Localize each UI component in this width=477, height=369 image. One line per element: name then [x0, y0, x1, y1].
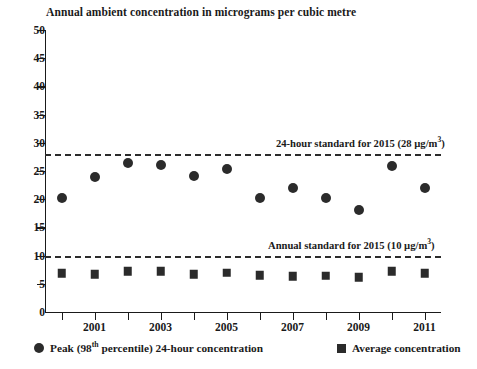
- data-point-square: [321, 272, 330, 281]
- chart-legend: Peak (98th percentile) 24-hour concentra…: [0, 342, 477, 364]
- square-marker-icon: [337, 344, 346, 353]
- x-axis-tick-label: 2001: [83, 321, 106, 333]
- data-point-circle: [288, 183, 298, 193]
- x-axis-tick: [425, 312, 426, 320]
- y-axis-tick-label: 0: [15, 306, 45, 318]
- data-point-circle: [387, 161, 397, 171]
- reference-line-label: Annual standard for 2015 (10 µg/m3): [268, 240, 435, 251]
- data-point-square: [222, 268, 231, 277]
- x-axis-tick: [194, 312, 195, 320]
- x-axis-tick: [62, 312, 63, 320]
- x-axis-tick: [293, 312, 294, 320]
- y-axis-tick-label: 30: [15, 137, 45, 149]
- data-point-circle: [156, 160, 166, 170]
- data-point-circle: [90, 172, 100, 182]
- x-axis-line: [45, 312, 441, 313]
- x-axis-tick: [161, 312, 162, 320]
- x-axis-tick-label: 2007: [281, 321, 304, 333]
- data-point-square: [123, 267, 132, 276]
- y-axis-tick-label: 5: [15, 278, 45, 290]
- data-point-circle: [123, 158, 133, 168]
- data-point-square: [90, 270, 99, 279]
- legend-item-average: Average concentration: [337, 342, 461, 354]
- reference-line: [45, 154, 441, 156]
- y-axis-tick-label: 10: [15, 250, 45, 262]
- legend-item-average-label: Average concentration: [352, 342, 461, 354]
- data-point-square: [288, 272, 297, 281]
- data-point-square: [156, 267, 165, 276]
- x-axis-tick: [260, 312, 261, 320]
- legend-item-peak-label: Peak (98th percentile) 24-hour concentra…: [50, 342, 263, 354]
- data-point-circle: [255, 193, 265, 203]
- x-axis-tick: [359, 312, 360, 320]
- data-point-square: [255, 271, 264, 280]
- data-point-circle: [420, 183, 430, 193]
- data-point-square: [57, 269, 66, 278]
- y-axis-tick-label: 20: [15, 193, 45, 205]
- y-axis-tick-label: 40: [15, 80, 45, 92]
- chart-title: Annual ambient concentration in microgra…: [46, 6, 356, 18]
- x-axis-tick-label: 2005: [215, 321, 238, 333]
- chart-container: Annual ambient concentration in microgra…: [0, 0, 477, 369]
- x-axis-tick-label: 2009: [347, 321, 370, 333]
- x-axis-tick-label: 2003: [149, 321, 172, 333]
- reference-line: [45, 256, 441, 258]
- y-axis-tick-label: 45: [15, 52, 45, 64]
- data-point-square: [387, 267, 396, 276]
- data-point-circle: [57, 193, 67, 203]
- data-point-circle: [321, 193, 331, 203]
- x-axis-tick: [128, 312, 129, 320]
- y-axis-tick-label: 50: [15, 24, 45, 36]
- x-axis-tick: [227, 312, 228, 320]
- x-axis-tick: [326, 312, 327, 320]
- y-axis-tick-label: 25: [15, 165, 45, 177]
- legend-item-peak: Peak (98th percentile) 24-hour concentra…: [34, 342, 263, 354]
- x-axis-tick-label: 2011: [413, 321, 435, 333]
- y-axis-tick-label: 35: [15, 109, 45, 121]
- circle-marker-icon: [34, 343, 44, 353]
- data-point-square: [189, 270, 198, 279]
- x-axis-tick: [95, 312, 96, 320]
- data-point-square: [354, 273, 363, 282]
- data-point-circle: [222, 164, 232, 174]
- data-point-circle: [354, 205, 364, 215]
- data-point-circle: [189, 171, 199, 181]
- y-axis-tick-label: 15: [15, 221, 45, 233]
- y-axis-line: [45, 30, 46, 313]
- x-axis-tick: [392, 312, 393, 320]
- data-point-square: [420, 269, 429, 278]
- reference-line-label: 24-hour standard for 2015 (28 µg/m3): [276, 138, 445, 149]
